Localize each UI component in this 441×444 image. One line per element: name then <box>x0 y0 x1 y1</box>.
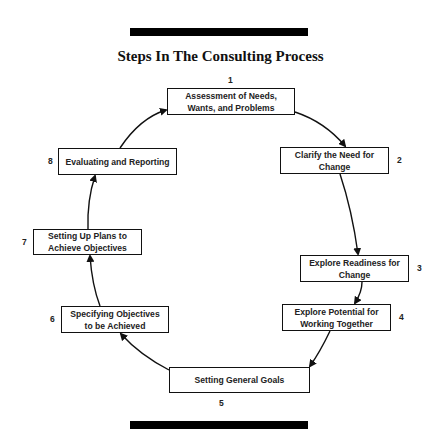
step-8-box: Evaluating and Reporting <box>58 148 177 175</box>
step-8-number: 8 <box>48 156 53 166</box>
step-2-number: 2 <box>397 155 402 165</box>
step-1-box: Assessment of Needs, Wants, and Problems <box>167 88 295 115</box>
step-1-number: 1 <box>228 75 233 85</box>
step-6-number: 6 <box>50 314 55 324</box>
step-7-box: Setting Up Plans to Achieve Objectives <box>33 229 142 255</box>
step-3-number: 3 <box>417 263 422 273</box>
step-4-box: Explore Potential for Working Together <box>282 304 391 331</box>
step-5-box: Setting General Goals <box>169 367 310 393</box>
step-4-number: 4 <box>399 312 404 322</box>
step-2-box: Clarify the Need for Change <box>280 147 389 174</box>
bottom-rule-bar <box>130 421 308 429</box>
step-3-box: Explore Readiness for Change <box>300 255 409 282</box>
step-7-number: 7 <box>22 237 27 247</box>
step-5-number: 5 <box>219 398 224 408</box>
step-6-box: Specifying Objectives to be Achieved <box>61 306 169 333</box>
